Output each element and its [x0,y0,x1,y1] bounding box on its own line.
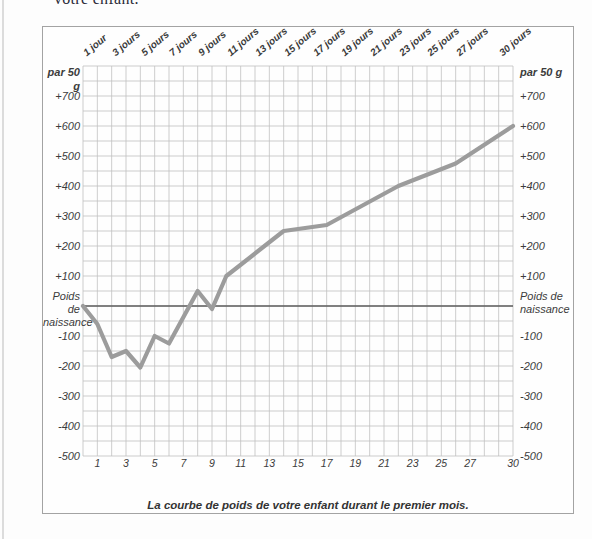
chart-caption: La courbe de poids de votre enfant duran… [43,499,573,511]
bottom-day-tick: 1 [83,457,111,469]
bottom-day-tick: 11 [227,457,255,469]
y-tick-label-left: +100 [43,269,80,283]
weight-chart-frame: La courbe de poids de votre enfant duran… [42,26,574,514]
scanned-book-page: votre enfant. La courbe de poids de votr… [0,0,592,539]
bottom-day-tick: 21 [370,457,398,469]
y-tick-label-left: +500 [43,149,80,163]
y-axis-unit-label-left: par 50 g [43,65,80,79]
bottom-day-tick: 7 [169,457,197,469]
bottom-day-tick: 9 [198,457,226,469]
birth-weight-label-line: naissance [43,316,80,329]
bottom-day-tick: 19 [341,457,369,469]
y-tick-label-left: -200 [43,359,80,373]
y-tick-label-left: +300 [43,209,80,223]
y-tick-label-right: +200 [520,239,574,253]
y-tick-label-right: +100 [520,269,574,283]
y-tick-label-left: +400 [43,179,80,193]
cropped-paragraph-text: votre enfant. [54,0,139,8]
y-tick-label-right: +500 [520,149,574,163]
birth-weight-label-left: Poids denaissance [43,290,80,329]
y-tick-label-right: -200 [520,359,574,373]
y-axis-unit-label-right: par 50 g [520,65,574,79]
y-tick-label-left: +600 [43,119,80,133]
bottom-day-tick: 25 [427,457,455,469]
y-tick-label-right: -100 [520,329,574,343]
y-tick-label-left: -300 [43,389,80,403]
birth-weight-label-line: Poids de [43,290,80,316]
y-tick-label-right: +700 [520,89,574,103]
bottom-day-tick: 30 [499,457,527,469]
y-tick-label-right: -400 [520,419,574,433]
y-tick-label-right: +600 [520,119,574,133]
bottom-day-tick: 13 [255,457,283,469]
y-tick-label-right: +300 [520,209,574,223]
y-tick-label-right: -500 [520,449,574,463]
weight-chart-plot [43,27,573,497]
birth-weight-label-right: Poids denaissance [520,290,574,316]
y-tick-label-left: +200 [43,239,80,253]
y-tick-label-left: -100 [43,329,80,343]
bottom-day-tick: 17 [313,457,341,469]
birth-weight-label-line: naissance [520,303,574,316]
y-tick-label-right: -300 [520,389,574,403]
bottom-day-tick: 15 [284,457,312,469]
y-tick-label-right: +400 [520,179,574,193]
bottom-day-tick: 5 [141,457,169,469]
y-tick-label-left: +700 [43,89,80,103]
bottom-day-tick: 23 [399,457,427,469]
y-tick-label-left: -400 [43,419,80,433]
y-tick-label-left: -500 [43,449,80,463]
birth-weight-label-line: Poids de [520,290,574,303]
bottom-day-tick: 3 [112,457,140,469]
page-scan-edge [2,0,4,539]
bottom-day-tick: 27 [456,457,484,469]
